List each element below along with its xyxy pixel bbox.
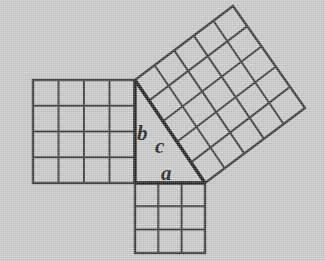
label-b: b	[137, 121, 148, 145]
label-c: c	[155, 134, 165, 158]
pythagorean-diagram: b c a	[0, 0, 325, 261]
a-square-outline	[135, 183, 205, 253]
square-on-leg-a	[135, 183, 205, 253]
square-on-leg-b	[33, 80, 135, 183]
diagram-canvas: b c a	[0, 0, 325, 261]
label-a: a	[161, 161, 172, 185]
